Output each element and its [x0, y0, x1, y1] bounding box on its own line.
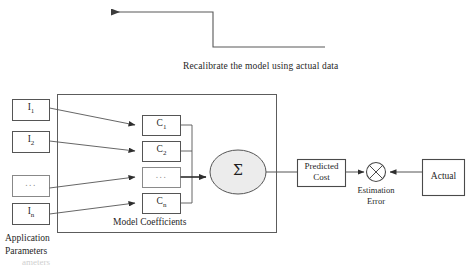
input-label-n: In — [12, 207, 50, 219]
input-boxes — [13, 100, 50, 225]
estimation-error-label: Estimation Error — [345, 185, 407, 207]
coefficient-label-2-sub: 2 — [163, 149, 167, 157]
estimation-error-label-line2: Error — [345, 196, 407, 207]
estimation-error-comparator[interactable] — [367, 163, 386, 182]
diagram-vector-layer — [0, 0, 475, 272]
coefficient-label-ellipsis-base: ... — [156, 170, 168, 180]
input-label-n-sub: n — [31, 211, 35, 219]
input-label-1-sub: 1 — [31, 107, 35, 115]
application-parameters-line2: Parameters — [5, 245, 50, 258]
input-label-ellipsis: ... — [12, 179, 50, 189]
predicted-cost-label-line2: Cost — [297, 172, 346, 183]
coefficient-label-n-sub: n — [163, 201, 167, 209]
predicted-cost-label-line1: Predicted — [297, 161, 346, 172]
predicted-cost-label: Predicted Cost — [297, 161, 346, 183]
coefficient-label-1: C1 — [142, 119, 181, 131]
feedback-path — [112, 12, 325, 47]
coefficient-bus — [181, 125, 207, 203]
application-parameters-label: Application Parameters — [5, 232, 50, 257]
coefficient-label-n: Cn — [142, 197, 181, 209]
application-parameters-line1: Application — [5, 232, 50, 245]
model-coefficients-label: Model Coefficients — [113, 218, 186, 228]
coefficient-label-1-sub: 1 — [163, 123, 167, 131]
estimation-error-label-line1: Estimation — [345, 185, 407, 196]
actual-label: Actual — [422, 172, 465, 182]
input-label-ellipsis-base: ... — [25, 178, 37, 188]
footer-ghost-text: ameters — [22, 258, 50, 267]
recalibrate-caption: Recalibrate the model using actual data — [183, 62, 338, 72]
input-label-1: I1 — [12, 103, 50, 115]
diagram-canvas: Recalibrate the model using actual data … — [0, 0, 475, 272]
coefficient-label-2: C2 — [142, 145, 181, 157]
coefficient-label-ellipsis: ... — [142, 171, 181, 181]
summation-symbol: Σ — [214, 163, 262, 178]
input-label-2-sub: 2 — [31, 139, 35, 147]
input-label-2: I2 — [12, 135, 50, 147]
input-to-coefficient-arrows — [50, 108, 136, 214]
